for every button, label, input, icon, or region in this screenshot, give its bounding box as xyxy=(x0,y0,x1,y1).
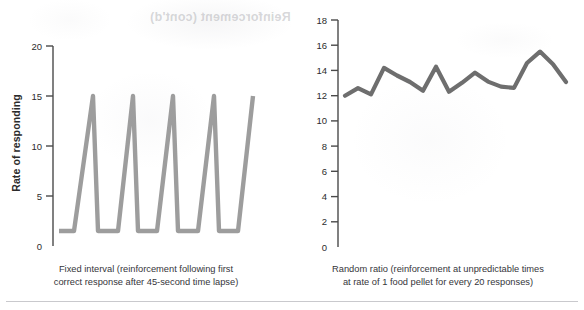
plot-area-random-ratio: 18 16 14 12 10 8 6 4 2 0 Rate of respond… xyxy=(292,0,584,258)
y-tick-label-8: 8 xyxy=(322,141,327,152)
y-tick-label-20: 20 xyxy=(31,41,42,52)
y-tick-label-12: 12 xyxy=(316,90,327,101)
caption-random-ratio: Random ratio (reinforcement at unpredict… xyxy=(292,263,584,288)
plot-area-fixed-interval: 20 15 10 5 0 Rate of responding xyxy=(0,0,292,258)
footer-divider-rule xyxy=(6,301,578,302)
caption-line-2: correct response after 45-second time la… xyxy=(0,276,292,289)
chart-random-ratio: 18 16 14 12 10 8 6 4 2 0 xyxy=(292,0,584,258)
y-tick-label-4: 4 xyxy=(322,191,327,202)
y-tick-label-10: 10 xyxy=(31,141,42,152)
y-axis-label-left: Rate of responding xyxy=(10,93,22,193)
y-tick-label-5: 5 xyxy=(37,191,42,202)
caption-line-1: Random ratio (reinforcement at unpredict… xyxy=(292,263,584,276)
figure-panels: 20 15 10 5 0 Rate of responding Fixed in… xyxy=(0,0,584,310)
y-tick-label-2: 2 xyxy=(322,216,327,227)
panel-random-ratio: 18 16 14 12 10 8 6 4 2 0 Rate of respond… xyxy=(292,0,584,296)
y-tick-label-15: 15 xyxy=(31,91,42,102)
y-tick-label-0: 0 xyxy=(322,242,327,253)
y-tick-label-0: 0 xyxy=(37,241,42,252)
caption-fixed-interval: Fixed interval (reinforcement following … xyxy=(0,263,292,288)
chart-fixed-interval: 20 15 10 5 0 xyxy=(0,0,292,258)
y-axis-ticks xyxy=(46,46,53,196)
caption-line-2: at rate of 1 food pellet for every 20 re… xyxy=(292,276,584,289)
panel-fixed-interval: 20 15 10 5 0 Rate of responding Fixed in… xyxy=(0,0,292,296)
y-tick-label-10: 10 xyxy=(316,115,327,126)
y-tick-label-6: 6 xyxy=(322,166,327,177)
data-series-fixed-interval xyxy=(59,96,253,231)
y-axis-ticks xyxy=(331,20,338,222)
y-tick-label-18: 18 xyxy=(316,15,327,26)
data-series-random-ratio xyxy=(345,52,566,96)
caption-line-1: Fixed interval (reinforcement following … xyxy=(0,263,292,276)
y-tick-label-16: 16 xyxy=(316,40,327,51)
y-tick-label-14: 14 xyxy=(316,65,327,76)
